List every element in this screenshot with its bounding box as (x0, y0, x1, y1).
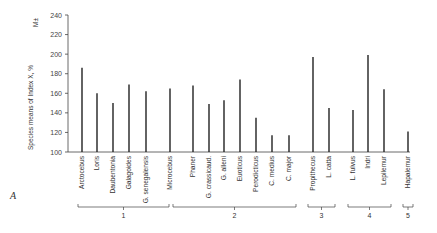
group-brackets: 12345 (78, 204, 413, 219)
category-label: L. catta (325, 156, 332, 178)
group-label: 4 (368, 212, 372, 219)
species-index-chart: 100120140160180200220240 ArctocebusLoris… (0, 0, 437, 233)
y-axis: 100120140160180200220240 (50, 12, 68, 156)
category-label: C. medius (268, 155, 275, 185)
category-label: Euoticus (236, 155, 243, 181)
category-label: Hapalemur (404, 155, 412, 188)
panel-label: A (9, 190, 17, 201)
y-tick-label: 220 (50, 31, 62, 38)
category-label: Lepilemur (380, 155, 388, 185)
category-label: Phaner (189, 155, 196, 177)
category-label: Indri (364, 155, 371, 168)
y-tick-label: 120 (50, 129, 62, 136)
y-tick-label: 100 (50, 149, 62, 156)
category-label: G. crassicaud. (205, 156, 212, 198)
category-label: Microcebus (166, 155, 173, 189)
group-label: 2 (233, 212, 237, 219)
group-bracket (348, 204, 391, 210)
category-label: L. fulvus (349, 155, 356, 180)
y-tick-label: 140 (50, 109, 62, 116)
y-tick-label: 180 (50, 70, 62, 77)
y-tick-label: 160 (50, 90, 62, 97)
group-bracket (403, 204, 413, 210)
y-axis-unit: M± (32, 18, 39, 27)
group-label: 5 (406, 212, 410, 219)
y-tick-label: 240 (50, 12, 62, 19)
bars (82, 55, 408, 152)
category-label: G. alleni (220, 155, 227, 180)
y-tick-label: 200 (50, 51, 62, 58)
group-label: 1 (122, 212, 126, 219)
group-bracket (308, 204, 335, 210)
category-label: Galagoides (125, 155, 133, 189)
category-label: Daubentonia (109, 156, 116, 194)
category-label: C. major (285, 155, 293, 181)
category-label: Loris (93, 155, 100, 170)
group-bracket (173, 204, 296, 210)
category-label: Propithecus (309, 155, 317, 191)
category-label: Perodicticus (252, 155, 259, 192)
category-label: G. senegalensis (142, 155, 150, 203)
y-axis-title: Species means of Index X, % (27, 65, 35, 150)
group-label: 3 (320, 212, 324, 219)
category-labels: ArctocebusLorisDaubentoniaGalagoidesG. s… (78, 155, 412, 203)
category-label: Arctocebus (78, 155, 85, 189)
group-bracket (78, 204, 169, 210)
